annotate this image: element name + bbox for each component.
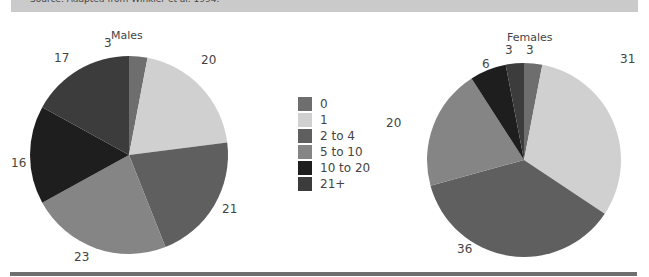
legend-swatch xyxy=(298,129,312,143)
legend-item: 2 to 4 xyxy=(298,128,370,144)
legend-label: 5 to 10 xyxy=(320,145,363,159)
pie-title: Females xyxy=(507,31,553,44)
legend-swatch xyxy=(298,97,312,111)
slice-value-label: 3 xyxy=(526,43,534,57)
legend-item: 21+ xyxy=(298,176,370,192)
slice-value-label: 31 xyxy=(620,52,635,66)
pie-males: 32021231617Males xyxy=(11,29,237,264)
legend-swatch xyxy=(298,145,312,159)
legend-item: 5 to 10 xyxy=(298,144,370,160)
pie-females: 331362063Females xyxy=(386,31,635,257)
slice-value-label: 6 xyxy=(482,57,490,71)
legend-label: 0 xyxy=(320,97,328,111)
legend-label: 2 to 4 xyxy=(320,129,355,143)
legend-swatch xyxy=(298,177,312,191)
slice-value-label: 20 xyxy=(201,53,216,67)
slice-value-label: 3 xyxy=(505,43,513,57)
legend-item: 1 xyxy=(298,112,370,128)
legend-item: 0 xyxy=(298,96,370,112)
legend: 012 to 45 to 1010 to 2021+ xyxy=(298,96,370,192)
legend-label: 21+ xyxy=(320,177,345,191)
legend-item: 10 to 20 xyxy=(298,160,370,176)
legend-label: 10 to 20 xyxy=(320,161,370,175)
slice-value-label: 17 xyxy=(54,51,69,65)
slice-value-label: 16 xyxy=(11,156,26,170)
slice-value-label: 20 xyxy=(386,116,401,130)
legend-swatch xyxy=(298,161,312,175)
bottom-rule xyxy=(10,272,637,276)
pie-title: Males xyxy=(111,29,143,42)
slice-value-label: 36 xyxy=(457,242,472,256)
slice-value-label: 21 xyxy=(222,202,237,216)
legend-swatch xyxy=(298,113,312,127)
slice-value-label: 23 xyxy=(74,250,89,264)
legend-label: 1 xyxy=(320,113,328,127)
